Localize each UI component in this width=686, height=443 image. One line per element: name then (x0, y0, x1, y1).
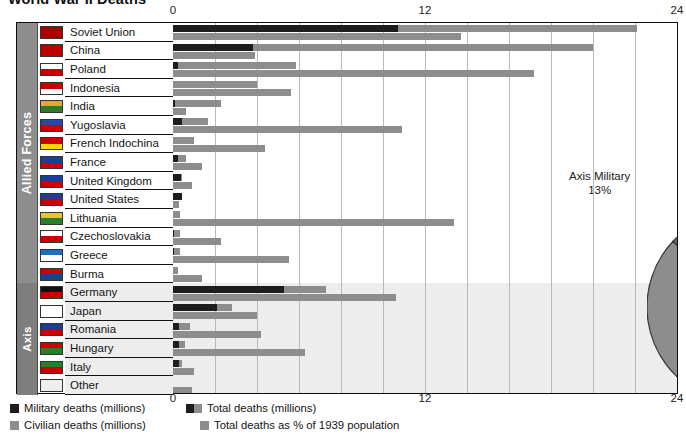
country-label-united-states: United States (65, 190, 173, 209)
country-label-indonesia: Indonesia (65, 79, 173, 98)
flag-icon-indonesia (40, 82, 63, 95)
bar-civilian-india (175, 100, 221, 107)
country-label-france: France (65, 153, 173, 172)
bar-percent-china (173, 52, 255, 59)
bar-civilian-germany (284, 286, 326, 293)
bar-civilian-china (253, 44, 593, 51)
axis-tick-12: 12 (419, 4, 432, 16)
bar-civilian-soviet-union (398, 25, 637, 32)
legend-label: Total deaths (millions) (207, 402, 316, 414)
legend-label: Civilian deaths (millions) (24, 419, 146, 431)
group-rail-allied: Allied Forces (17, 23, 38, 283)
gridline (509, 23, 510, 393)
flag-icon-burma (40, 268, 63, 281)
country-label-united-kingdom: United Kingdom (65, 172, 173, 191)
bar-percent-united-kingdom (173, 182, 192, 189)
bar-civilian-japan (217, 304, 232, 311)
bar-percent-indonesia (173, 89, 291, 96)
flag-icon-germany (40, 286, 63, 299)
legend-label: Military deaths (millions) (24, 402, 145, 414)
bar-civilian-burma (173, 267, 178, 274)
flag-icon-indochina (40, 137, 63, 150)
gridline (551, 23, 552, 393)
bar-civilian-italy (179, 360, 182, 367)
axis-tick-24: 24 (671, 392, 684, 404)
flag-icon-france (40, 156, 63, 169)
pie-label-value: 13% (588, 184, 611, 196)
bar-percent-germany (173, 294, 396, 301)
country-label-hungary: Hungary (65, 339, 173, 358)
flag-icon-china (40, 44, 63, 57)
legend-swatch-grey (10, 421, 19, 430)
flag-icon-romania (40, 323, 63, 336)
group-label-allied: Allied Forces (20, 112, 34, 194)
bar-chart-panel: Allied Forces Axis Soviet UnionChinaPola… (16, 22, 678, 394)
bar-percent-japan (173, 312, 257, 319)
country-label-germany: Germany (65, 283, 173, 302)
flag-icon-yugoslavia (40, 119, 63, 132)
country-label-soviet-union: Soviet Union (65, 23, 173, 42)
bar-percent-italy (173, 368, 194, 375)
pie-label-text: Axis Military (569, 170, 630, 182)
pie-label-axis-military: Axis Military13% (569, 169, 630, 198)
chart-root: World War II Deaths 01224 Allied Forces … (0, 0, 686, 443)
bar-military-soviet-union (173, 25, 398, 32)
country-label-lithuania: Lithuania (65, 209, 173, 228)
gridline (467, 23, 468, 393)
group-rail-axis: Axis (17, 283, 38, 395)
country-label-india: India (65, 97, 173, 116)
legend-swatch-split (186, 404, 202, 413)
flag-icon-greece (40, 249, 63, 262)
gridline (425, 23, 426, 393)
flag-icon-lithuania (40, 212, 63, 225)
country-label-romania: Romania (65, 321, 173, 340)
bar-percent-soviet-union (173, 33, 461, 40)
legend-swatch-grey (200, 421, 209, 430)
country-label-china: China (65, 42, 173, 61)
pie-slice-allied-civilians (647, 241, 677, 393)
bar-civilian-romania (179, 323, 190, 330)
flag-icon-czech (40, 230, 63, 243)
country-label-yugoslavia: Yugoslavia (65, 116, 173, 135)
flag-icon-usa (40, 193, 63, 206)
pie-chart: Allied Civilians58%Allied Military25%Axi… (647, 211, 677, 393)
bar-civilian-greece (174, 248, 180, 255)
bar-civilian-yugoslavia (182, 118, 207, 125)
bar-percent-france (173, 163, 202, 170)
legend-item-civilian-deaths: Civilian deaths (millions) (10, 419, 146, 431)
gridline (383, 23, 384, 393)
bar-percent-hungary (173, 349, 305, 356)
bar-civilian-lithuania (173, 211, 180, 218)
bar-percent-romania (173, 331, 261, 338)
pie-svg (647, 211, 677, 393)
legend-swatch-dark (10, 404, 19, 413)
flag-icon-hungary (40, 342, 63, 355)
country-label-greece: Greece (65, 246, 173, 265)
group-label-axis: Axis (21, 326, 33, 352)
bar-percent-french-indochina (173, 145, 265, 152)
bar-civilian-poland (178, 62, 296, 69)
flag-icon-ussr (40, 26, 63, 39)
bar-percent-greece (173, 256, 289, 263)
flag-icon-uk (40, 175, 63, 188)
legend-item-total-deaths-pct: Total deaths as % of 1939 population (200, 419, 399, 431)
bar-percent-lithuania (173, 219, 454, 226)
flag-icon-poland (40, 63, 63, 76)
legend-label: Total deaths as % of 1939 population (214, 419, 399, 431)
bar-percent-yugoslavia (173, 126, 402, 133)
bar-civilian-hungary (179, 341, 185, 348)
legend-item-total-deaths: Total deaths (millions) (186, 402, 316, 414)
country-label-czechoslovakia: Czechoslovakia (65, 228, 173, 247)
gridline (635, 23, 636, 393)
gridline (341, 23, 342, 393)
axis-tick-0: 0 (170, 4, 176, 16)
bar-military-united-kingdom (173, 174, 181, 181)
bar-military-united-states (173, 193, 182, 200)
axis-tick-24: 24 (671, 4, 684, 16)
bar-civilian-france (178, 155, 186, 162)
gridline (593, 23, 594, 393)
flag-icon-other (40, 379, 63, 392)
legend: Military deaths (millions)Civilian death… (10, 402, 480, 438)
country-label-french-indochina: French Indochina (65, 135, 173, 154)
country-label-poland: Poland (65, 60, 173, 79)
